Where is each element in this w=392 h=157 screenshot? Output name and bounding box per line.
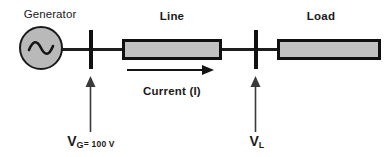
line-label: Line [160, 11, 184, 23]
wire-line-to-bus2 [220, 48, 257, 51]
vg-value: = 100 V [84, 139, 115, 149]
current-label: Current (I) [143, 86, 201, 98]
busbar-generator [89, 30, 93, 69]
load-label: Load [307, 11, 335, 23]
vl-pointer-arrow-icon [249, 76, 262, 132]
vg-label: VG= 100 V [67, 134, 115, 148]
vg-subscript: G [77, 140, 84, 150]
vl-subscript: L [259, 140, 265, 150]
current-direction-arrow-icon [126, 63, 216, 77]
vg-symbol: V [67, 133, 76, 149]
generator-symbol [19, 26, 63, 70]
generator-label: Generator [24, 9, 77, 21]
ac-source-sine-icon [21, 28, 61, 68]
vl-symbol: V [249, 133, 258, 149]
wire-bus1-to-line [90, 48, 124, 51]
wire-bus2-to-load [255, 48, 279, 51]
circuit-diagram: Generator Line Load Current (I) VG= 100 … [0, 0, 392, 157]
wire-generator-to-bus1 [62, 48, 92, 51]
line-impedance-box [122, 39, 222, 60]
vg-pointer-arrow-icon [84, 76, 97, 132]
busbar-load [254, 30, 258, 69]
load-box [277, 39, 381, 60]
vl-label: VL [249, 134, 264, 148]
